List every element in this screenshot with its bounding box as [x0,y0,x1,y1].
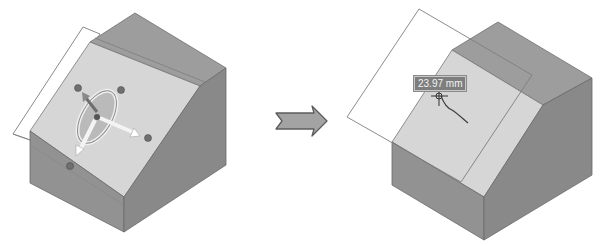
handle-top-left[interactable] [75,85,82,92]
handle-bottom[interactable] [67,163,74,170]
after-view [347,9,592,240]
handle-right[interactable] [145,135,152,142]
before-view [13,13,226,232]
right-arrow-icon [276,106,327,136]
dimension-value-label[interactable]: 23.97 mm [414,76,466,91]
cad-illustration [0,0,604,246]
handle-top-right[interactable] [118,87,125,94]
